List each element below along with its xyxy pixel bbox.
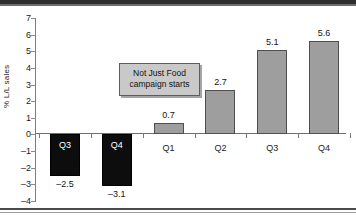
y-tick-label: 5 xyxy=(26,47,31,56)
x-tick-mark xyxy=(143,133,144,138)
y-tick-6: 6 xyxy=(35,35,40,36)
y-tick-–3: –3 xyxy=(35,184,40,185)
y-tick-2: 2 xyxy=(35,101,40,102)
y-tick-3: 3 xyxy=(35,85,40,86)
bar-value-label: 5.6 xyxy=(302,29,346,38)
category-label-5: Q4 xyxy=(302,144,346,153)
y-tick-4: 4 xyxy=(35,68,40,69)
bar-value-label: –3.1 xyxy=(95,190,139,199)
campaign-callout: Not Just Food campaign starts xyxy=(119,63,200,96)
y-tick-label: 6 xyxy=(26,30,31,39)
x-tick-mark xyxy=(298,133,299,138)
y-tick-mark xyxy=(31,85,36,86)
y-tick-1: 1 xyxy=(35,118,40,119)
y-tick-5: 5 xyxy=(35,51,40,52)
y-tick-mark xyxy=(31,51,36,52)
bar-q4-5 xyxy=(309,41,339,134)
top-scan-band-soft xyxy=(0,4,356,6)
y-axis-line xyxy=(35,18,36,201)
category-label-4: Q3 xyxy=(250,144,294,153)
bar-value-label: 0.7 xyxy=(147,111,191,120)
bar-q3-4 xyxy=(257,50,287,135)
x-axis-line xyxy=(35,133,346,134)
y-tick-–2: –2 xyxy=(35,168,40,169)
y-tick-mark xyxy=(31,168,36,169)
y-tick-label: 3 xyxy=(26,80,31,89)
y-tick-label: 7 xyxy=(26,14,31,23)
y-tick-–4: –4 xyxy=(35,201,40,202)
x-tick-mark xyxy=(350,133,351,138)
y-tick-mark xyxy=(31,201,36,202)
y-tick-mark xyxy=(31,184,36,185)
y-tick-label: 4 xyxy=(26,63,31,72)
y-tick-mark xyxy=(31,101,36,102)
y-tick-mark xyxy=(31,118,36,119)
y-tick-label: –1 xyxy=(21,147,31,156)
y-tick-–1: –1 xyxy=(35,151,40,152)
chart-screenshot: % L/L sales 76543210–1–2–3–4 –2.5Q3–3.1Q… xyxy=(0,0,356,216)
category-label-0: Q3 xyxy=(43,141,87,150)
y-axis-title: % L/L sales xyxy=(2,65,11,108)
y-tick-label: 2 xyxy=(26,97,31,106)
y-tick-label: 1 xyxy=(26,113,31,122)
bar-q2-3 xyxy=(205,90,235,135)
y-tick-label: 0 xyxy=(26,130,31,139)
x-tick-mark xyxy=(91,133,92,138)
y-tick-mark xyxy=(31,18,36,19)
category-label-3: Q2 xyxy=(198,144,242,153)
x-tick-mark xyxy=(246,133,247,138)
x-tick-mark xyxy=(39,133,40,138)
bottom-frame-rule-secondary xyxy=(0,212,356,213)
bar-value-label: 2.7 xyxy=(198,78,242,87)
bar-value-label: –2.5 xyxy=(43,180,87,189)
callout-line-2: campaign starts xyxy=(130,80,190,90)
y-tick-7: 7 xyxy=(35,18,40,19)
category-label-1: Q4 xyxy=(95,141,139,150)
x-tick-mark xyxy=(195,133,196,138)
y-tick-mark xyxy=(31,151,36,152)
bottom-frame-rule xyxy=(0,208,356,210)
callout-line-1: Not Just Food xyxy=(133,69,186,79)
y-tick-label: –4 xyxy=(21,197,31,206)
y-tick-label: –2 xyxy=(21,163,31,172)
y-tick-mark xyxy=(31,35,36,36)
y-tick-mark xyxy=(31,68,36,69)
bar-q1-2 xyxy=(154,123,184,135)
plot-area: 76543210–1–2–3–4 –2.5Q3–3.1Q40.7Q12.7Q25… xyxy=(35,18,346,201)
y-tick-label: –3 xyxy=(21,180,31,189)
category-label-2: Q1 xyxy=(147,144,191,153)
y-tick-mark xyxy=(31,134,36,135)
bar-value-label: 5.1 xyxy=(250,38,294,47)
